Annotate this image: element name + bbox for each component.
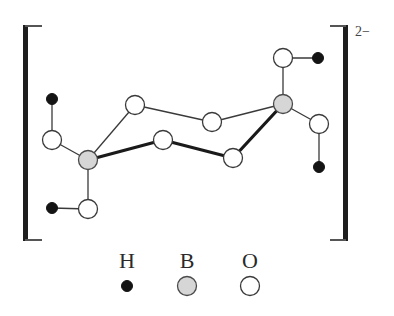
oxygen-atom-o6 <box>224 149 243 168</box>
bond-o4-o6 <box>163 140 233 158</box>
legend-hydrogen-icon <box>122 281 133 292</box>
legend-boron-icon <box>178 277 197 296</box>
left-bracket <box>23 25 42 241</box>
oxygen-atom-o7 <box>274 49 293 68</box>
bond-b1-o3 <box>88 105 135 160</box>
borate-anion-diagram: 2− H B O <box>0 0 394 316</box>
hydrogen-atom-h2 <box>47 203 58 214</box>
legend: H B O <box>119 248 259 296</box>
right-bracket <box>330 25 348 241</box>
bond-o6-b2 <box>233 104 283 158</box>
atoms-layer <box>43 49 329 219</box>
bond-o5-b2 <box>212 104 283 122</box>
bond-b1-o4 <box>88 140 163 160</box>
bond-o3-o5 <box>135 105 212 122</box>
oxygen-atom-o2 <box>79 200 98 219</box>
charge-label: 2− <box>355 24 370 39</box>
boron-atom-b1 <box>79 151 98 170</box>
hydrogen-atom-h1 <box>47 94 58 105</box>
hydrogen-atom-h3 <box>313 53 324 64</box>
oxygen-atom-o4 <box>154 131 173 150</box>
legend-label-o: O <box>242 248 258 273</box>
bonds-layer <box>52 58 319 209</box>
oxygen-atom-o3 <box>126 96 145 115</box>
oxygen-atom-o1 <box>43 131 62 150</box>
oxygen-atom-o8 <box>310 115 329 134</box>
legend-label-h: H <box>119 248 135 273</box>
legend-label-b: B <box>180 248 195 273</box>
legend-oxygen-icon <box>241 277 260 296</box>
boron-atom-b2 <box>274 95 293 114</box>
oxygen-atom-o5 <box>203 113 222 132</box>
hydrogen-atom-h4 <box>314 162 325 173</box>
